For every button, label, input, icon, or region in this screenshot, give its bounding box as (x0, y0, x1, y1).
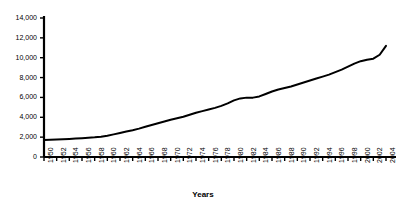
y-axis-tick-label: 12,000 (0, 34, 37, 42)
x-axis-tick-label: 1954 (72, 147, 80, 163)
x-axis-tick-label: 1964 (136, 147, 144, 163)
x-axis-tick-label: 1950 (47, 147, 55, 163)
x-axis-tick-label: 1962 (123, 147, 131, 163)
y-axis-tick-label: 14,000 (0, 14, 37, 22)
chart-plot-area (0, 0, 406, 208)
data-series-line (44, 46, 386, 140)
x-axis-tick-label: 1968 (161, 147, 169, 163)
line-chart: 14,00012,00010,0008,0006,0004,0002,0000 … (0, 0, 406, 208)
x-axis-tick-label: 1974 (199, 147, 207, 163)
x-axis-tick-label: 1986 (275, 147, 283, 163)
y-axis-tick-label: 8,000 (0, 74, 37, 82)
x-axis-tick-label: 1972 (186, 147, 194, 163)
y-axis-tick-label: 2,000 (0, 133, 37, 141)
x-axis-tick-label: 1978 (224, 147, 232, 163)
x-axis-tick-label: 1980 (237, 147, 245, 163)
x-axis-tick-label: 2000 (364, 147, 372, 163)
x-axis-tick-label: 1990 (300, 147, 308, 163)
x-axis-tick-label: 2002 (376, 147, 384, 163)
x-axis-tick-label: 1970 (174, 147, 182, 163)
x-axis-tick-label: 1984 (262, 147, 270, 163)
y-axis-tick-label: 6,000 (0, 93, 37, 101)
y-axis-tick-label: 10,000 (0, 54, 37, 62)
x-axis-tick-label: 1952 (60, 147, 68, 163)
x-axis-tick-label: 1966 (148, 147, 156, 163)
x-axis-tick-label: 1988 (288, 147, 296, 163)
x-axis-tick-label: 1998 (351, 147, 359, 163)
x-axis-tick-label: 1956 (85, 147, 93, 163)
x-axis-tick-label: 1996 (338, 147, 346, 163)
x-axis-tick-label: 1994 (326, 147, 334, 163)
x-axis-tick-label: 1960 (110, 147, 118, 163)
x-axis-tick-label: 1982 (250, 147, 258, 163)
x-axis-tick-label: 1992 (313, 147, 321, 163)
x-axis-title: Years (0, 190, 406, 199)
y-axis-tick-label: 0 (0, 153, 37, 161)
x-axis-tick-label: 1958 (98, 147, 106, 163)
x-axis-tick-label: 1976 (212, 147, 220, 163)
y-axis-tick-label: 4,000 (0, 113, 37, 121)
x-axis-tick-label: 2004 (389, 147, 397, 163)
chart-axes (44, 16, 396, 157)
